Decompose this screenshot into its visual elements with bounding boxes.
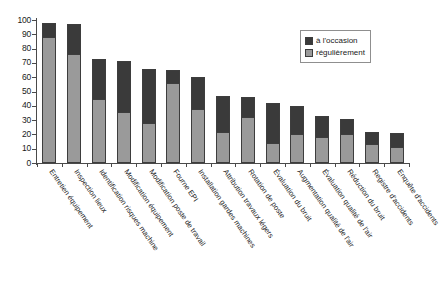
x-axis-tick bbox=[111, 163, 112, 167]
bar-segment-a-l-occasion bbox=[42, 23, 56, 37]
legend-swatch-icon bbox=[305, 49, 313, 57]
bar-segment-a-l-occasion bbox=[390, 133, 404, 147]
y-axis-tick-label: 80 bbox=[1, 44, 31, 53]
bar-segment-regulierement bbox=[290, 134, 304, 163]
bar-segment-a-l-occasion bbox=[67, 24, 81, 54]
x-axis-tick bbox=[335, 163, 336, 167]
bar-segment-regulierement bbox=[166, 83, 180, 163]
legend-item: régulièrement bbox=[305, 47, 365, 58]
x-axis-tick bbox=[87, 163, 88, 167]
bar-group bbox=[266, 103, 280, 163]
bar-group bbox=[315, 116, 329, 163]
bar-segment-a-l-occasion bbox=[191, 77, 205, 108]
bar-segment-a-l-occasion bbox=[241, 97, 255, 117]
bar-segment-a-l-occasion bbox=[340, 119, 354, 135]
bar-segment-a-l-occasion bbox=[117, 61, 131, 111]
bar-group bbox=[117, 61, 131, 163]
y-axis-tick-label: 20 bbox=[1, 130, 31, 139]
x-axis-tick bbox=[384, 163, 385, 167]
bar-segment-regulierement bbox=[365, 144, 379, 163]
bar-group bbox=[166, 70, 180, 163]
bar-segment-regulierement bbox=[266, 143, 280, 163]
bar-group bbox=[42, 23, 56, 163]
legend-item: à l'occasion bbox=[305, 35, 365, 46]
x-axis-category-label: Entretien équipement bbox=[48, 168, 95, 230]
bar-group bbox=[142, 69, 156, 163]
bar-group bbox=[191, 77, 205, 163]
x-axis-tick bbox=[161, 163, 162, 167]
x-axis-tick bbox=[136, 163, 137, 167]
x-axis-tick bbox=[285, 163, 286, 167]
x-axis-line bbox=[36, 163, 410, 164]
bar-segment-a-l-occasion bbox=[92, 59, 106, 99]
bar-segment-regulierement bbox=[216, 132, 230, 163]
bar-group bbox=[216, 96, 230, 163]
bar-segment-regulierement bbox=[315, 137, 329, 163]
bar-segment-regulierement bbox=[241, 117, 255, 163]
y-axis-tick-label: 100 bbox=[1, 16, 31, 25]
x-axis-labels: Entretien équipementInspection lieuxIden… bbox=[0, 168, 413, 289]
bar-segment-regulierement bbox=[92, 99, 106, 163]
legend-swatch-icon bbox=[305, 37, 313, 45]
bar-segment-regulierement bbox=[42, 37, 56, 163]
legend-label: à l'occasion bbox=[316, 37, 358, 45]
x-axis-tick bbox=[310, 163, 311, 167]
x-axis-tick bbox=[186, 163, 187, 167]
x-axis-tick bbox=[409, 163, 410, 167]
bar-group bbox=[290, 106, 304, 163]
x-axis-tick bbox=[260, 163, 261, 167]
bar-group bbox=[365, 132, 379, 163]
x-axis-tick bbox=[235, 163, 236, 167]
bar-segment-regulierement bbox=[340, 134, 354, 163]
x-axis-tick bbox=[62, 163, 63, 167]
x-axis-tick bbox=[37, 163, 38, 167]
x-axis-tick bbox=[211, 163, 212, 167]
y-axis-tick-label: 0 bbox=[1, 159, 31, 168]
bar-segment-a-l-occasion bbox=[216, 96, 230, 132]
bar-segment-regulierement bbox=[390, 147, 404, 163]
bar-segment-regulierement bbox=[117, 112, 131, 163]
bar-segment-regulierement bbox=[191, 109, 205, 163]
y-axis-tick-label: 30 bbox=[1, 116, 31, 125]
x-axis-tick bbox=[359, 163, 360, 167]
y-axis-tick-label: 60 bbox=[1, 73, 31, 82]
bar-group bbox=[67, 24, 81, 163]
y-axis-tick-label: 70 bbox=[1, 58, 31, 67]
bar-segment-a-l-occasion bbox=[266, 103, 280, 143]
bar-segment-a-l-occasion bbox=[290, 106, 304, 135]
bar-segment-regulierement bbox=[142, 123, 156, 163]
bar-segment-a-l-occasion bbox=[315, 116, 329, 137]
legend-label: régulièrement bbox=[316, 49, 365, 57]
y-axis-tick-label: 10 bbox=[1, 144, 31, 153]
bar-group bbox=[92, 59, 106, 163]
bar-group bbox=[390, 133, 404, 163]
y-axis-tick-label: 50 bbox=[1, 87, 31, 96]
bar-segment-regulierement bbox=[67, 54, 81, 163]
bar-group bbox=[340, 119, 354, 163]
bar-group bbox=[241, 97, 255, 163]
bar-segment-a-l-occasion bbox=[166, 70, 180, 83]
y-axis-tick-label: 40 bbox=[1, 101, 31, 110]
chart-legend: à l'occasion régulièrement bbox=[300, 30, 371, 63]
bar-segment-a-l-occasion bbox=[365, 132, 379, 145]
y-axis-tick-label: 90 bbox=[1, 30, 31, 39]
bar-segment-a-l-occasion bbox=[142, 69, 156, 123]
